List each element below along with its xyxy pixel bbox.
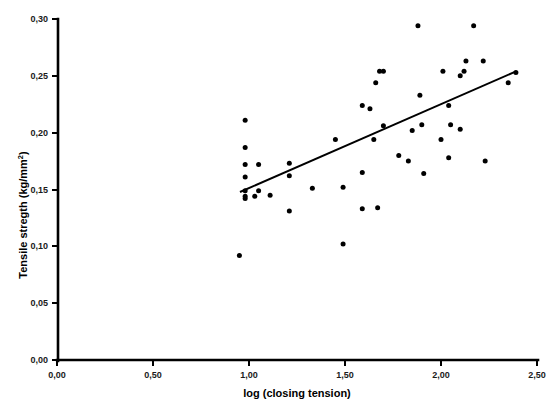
data-point: [341, 242, 346, 247]
data-point: [410, 128, 415, 133]
y-tick-label-0.00: 0,00: [30, 355, 48, 365]
data-point: [439, 137, 444, 142]
data-point: [243, 118, 248, 123]
data-point: [440, 69, 445, 74]
data-point: [310, 186, 315, 191]
y-axis-title-suffix: ): [17, 151, 29, 155]
data-point: [287, 209, 292, 214]
x-tick-label-0.00: 0,00: [48, 370, 66, 380]
x-tick-label-0.50: 0,50: [144, 370, 162, 380]
y-axis-title: Tensile stregth (kg/mm2): [16, 151, 29, 279]
x-tick-label-1.00: 1,00: [240, 370, 258, 380]
y-axis-title-text: Tensile stregth (kg/mm: [17, 159, 29, 279]
y-tick-label-0.25: 0,25: [30, 71, 48, 81]
data-point: [373, 80, 378, 85]
data-point: [367, 106, 372, 111]
regression-line-segment: [240, 72, 515, 192]
data-point: [360, 103, 365, 108]
data-point: [417, 93, 422, 98]
data-point: [446, 103, 451, 108]
data-point: [243, 175, 248, 180]
y-tick-label-0.05: 0,05: [30, 298, 48, 308]
data-point: [381, 123, 386, 128]
data-point: [458, 73, 463, 78]
data-point: [481, 59, 486, 64]
x-tick-label-1.50: 1,50: [336, 370, 354, 380]
x-tick-label-2.50: 2,50: [528, 370, 546, 380]
x-axis-title: log (closing tension): [243, 387, 351, 399]
data-point: [471, 23, 476, 28]
data-point: [406, 159, 411, 164]
data-point: [462, 69, 467, 74]
data-point: [243, 188, 248, 193]
data-point: [252, 194, 257, 199]
x-tick-label-2.00: 2,00: [432, 370, 450, 380]
data-point: [381, 69, 386, 74]
data-point: [268, 193, 273, 198]
data-point: [237, 253, 242, 258]
data-point: [243, 194, 248, 199]
data-point: [483, 159, 488, 164]
data-point: [396, 153, 401, 158]
data-point: [458, 127, 463, 132]
scatter-plot-figure: Tensile stregth (kg/mm2) 0,30 0,25 0,20 …: [0, 0, 552, 404]
data-point: [243, 162, 248, 167]
data-point: [375, 205, 380, 210]
regression-line: [240, 72, 515, 192]
svg-text:Tensile stregth (kg/mm2): Tensile stregth (kg/mm2): [16, 151, 29, 279]
data-point: [448, 122, 453, 127]
data-point: [341, 185, 346, 190]
data-point: [513, 70, 518, 75]
data-point: [446, 155, 451, 160]
data-point: [256, 162, 261, 167]
data-point: [333, 137, 338, 142]
data-point: [360, 170, 365, 175]
y-tick-label-0.30: 0,30: [30, 14, 48, 24]
data-points-layer: [237, 23, 518, 258]
data-point: [463, 59, 468, 64]
data-point: [506, 80, 511, 85]
y-tick-label-0.10: 0,10: [30, 241, 48, 251]
data-point: [415, 23, 420, 28]
data-point: [360, 206, 365, 211]
y-tick-label-0.15: 0,15: [30, 185, 48, 195]
data-point: [419, 122, 424, 127]
y-tick-label-0.20: 0,20: [30, 128, 48, 138]
data-point: [243, 145, 248, 150]
plot-canvas: Tensile stregth (kg/mm2) 0,30 0,25 0,20 …: [0, 0, 552, 404]
data-point: [421, 171, 426, 176]
data-point: [256, 188, 261, 193]
data-point: [287, 173, 292, 178]
x-axis-ticks: 0,00 0,50 1,00 1,50 2,00 2,50: [48, 360, 546, 380]
data-point: [287, 161, 292, 166]
y-axis-ticks: 0,30 0,25 0,20 0,15 0,10 0,05 0,00: [30, 14, 58, 365]
data-point: [371, 137, 376, 142]
